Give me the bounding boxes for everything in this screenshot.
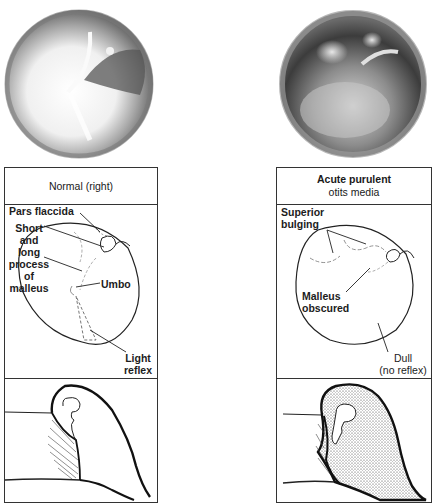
malleus-obscured-label: Malleus obscured <box>302 290 349 314</box>
bulge-outline <box>310 256 340 263</box>
dull-no-reflex-label: Dull (no reflex) <box>372 352 434 376</box>
superior-bulging-label: Superior bulging <box>281 206 324 230</box>
acute-cross-section <box>283 384 426 500</box>
leader-line <box>378 323 388 352</box>
bulge-outline <box>344 240 386 252</box>
leader-line <box>327 230 333 253</box>
leader-line <box>346 268 370 292</box>
leader-line <box>327 230 366 244</box>
eardrum-outline <box>296 225 413 344</box>
acute-diagram-drawing <box>0 0 441 504</box>
short-process-outline <box>386 249 400 262</box>
